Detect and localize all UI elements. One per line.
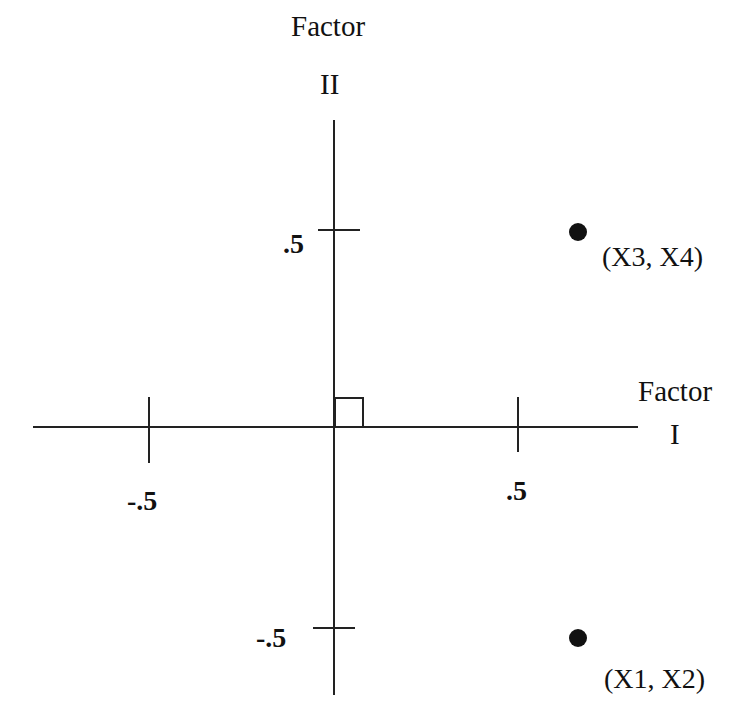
y-tick-label-pos: .5 <box>283 230 304 258</box>
right-angle-marker <box>335 398 363 427</box>
y-tick-label-neg: -.5 <box>256 624 286 652</box>
point-label-x1-x2: (X1, X2) <box>604 665 705 693</box>
x-tick-label-pos: .5 <box>506 477 527 505</box>
y-axis-title-line1: Factor <box>291 12 365 41</box>
x-axis-title-line1: Factor <box>638 377 712 406</box>
data-point-x3-x4 <box>569 223 587 241</box>
data-point-x1-x2 <box>569 629 587 647</box>
x-tick-label-neg: -.5 <box>127 487 157 515</box>
y-axis-title-line2: II <box>320 70 339 99</box>
x-axis-title-line2: I <box>670 420 680 449</box>
factor-plot <box>0 0 754 719</box>
point-label-x3-x4: (X3, X4) <box>602 243 703 271</box>
